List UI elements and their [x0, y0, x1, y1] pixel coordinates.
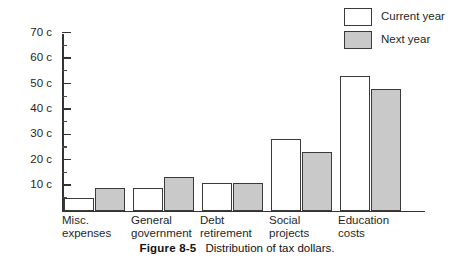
- bar-next-year: [164, 177, 194, 210]
- figure-container: Current year Next year 10 c20 c30 c40 c5…: [0, 0, 474, 262]
- bar-next-year: [302, 152, 332, 210]
- x-axis-label-line: retirement: [200, 227, 252, 240]
- bar-current-year: [340, 76, 370, 211]
- x-axis-label-line: Social: [269, 214, 309, 227]
- x-axis-label: Misc.expenses: [62, 214, 111, 240]
- x-axis-label-line: General: [131, 214, 192, 227]
- bar-next-year: [95, 188, 125, 211]
- x-axis-label-line: costs: [338, 227, 389, 240]
- x-axis-label: Debtretirement: [200, 214, 252, 240]
- x-axis-label-line: Misc.: [62, 214, 111, 227]
- x-axis-label-line: projects: [269, 227, 309, 240]
- x-axis-label: Generalgovernment: [131, 214, 192, 240]
- bars-layer: [0, 0, 474, 211]
- bar-current-year: [202, 183, 232, 211]
- bar-current-year: [64, 198, 94, 211]
- bar-next-year: [233, 183, 263, 211]
- bar-next-year: [371, 89, 401, 211]
- bar-current-year: [271, 139, 301, 210]
- bar-current-year: [133, 188, 163, 211]
- x-axis-label: Educationcosts: [338, 214, 389, 240]
- figure-caption: Figure 8-5Distribution of tax dollars.: [0, 242, 474, 256]
- x-axis-label-line: Education: [338, 214, 389, 227]
- figure-caption-text: Distribution of tax dollars.: [205, 242, 334, 254]
- figure-number: Figure 8-5: [139, 242, 196, 254]
- x-axis-label: Socialprojects: [269, 214, 309, 240]
- x-axis-label-line: expenses: [62, 227, 111, 240]
- plot-area: 10 c20 c30 c40 c50 c60 c70 c Misc.expens…: [0, 0, 474, 236]
- x-axis-label-line: government: [131, 227, 192, 240]
- x-axis-label-line: Debt: [200, 214, 252, 227]
